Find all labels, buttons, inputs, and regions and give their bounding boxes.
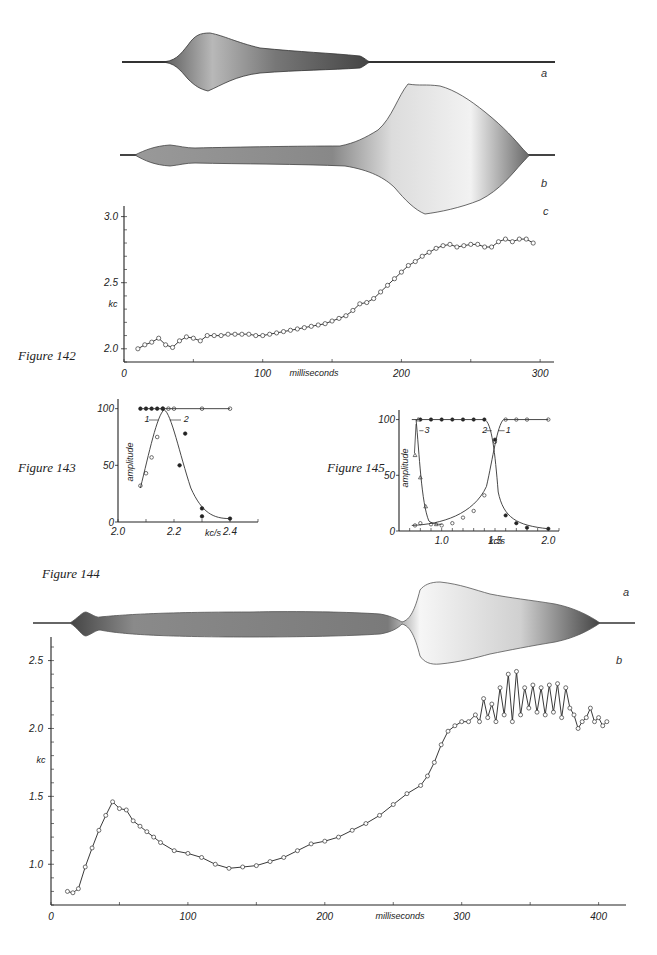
y-tick-label: 0 [389, 526, 395, 537]
data-point [337, 835, 341, 839]
data-point [150, 456, 154, 460]
data-point [268, 860, 272, 864]
y-tick-label: 50 [103, 460, 115, 471]
data-point [219, 333, 223, 337]
data-point [514, 669, 518, 673]
fig144-panel-b-label: b [616, 654, 622, 666]
data-point [323, 322, 327, 326]
data-point [351, 308, 355, 312]
data-point [413, 259, 417, 263]
x-tick-label: 400 [590, 911, 607, 922]
data-point [254, 333, 258, 337]
data-point [476, 242, 480, 246]
annotation-2: 2 [481, 425, 487, 435]
arrow-3-down [414, 424, 416, 453]
y-tick-label: 2.5 [103, 277, 118, 288]
data-point [76, 887, 80, 891]
data-point [268, 332, 272, 336]
data-point [155, 435, 159, 439]
curve-1 [412, 420, 549, 526]
x-axis-label: kc/s [489, 536, 506, 546]
data-point [104, 813, 108, 817]
data-point [323, 839, 327, 843]
data-point [531, 241, 535, 245]
fig142-panel-a-label: a [541, 67, 547, 79]
y-tick-label: 1.5 [29, 791, 43, 802]
data-point [240, 332, 244, 336]
data-point [288, 328, 292, 332]
y-tick-label: 2.0 [103, 343, 118, 354]
data-point [473, 713, 477, 717]
data-point [482, 697, 486, 701]
x-axis-label: kc/s [205, 528, 222, 538]
x-tick-label: 300 [532, 368, 549, 379]
fig142a-envelope: a [122, 33, 555, 91]
data-point [460, 720, 464, 724]
data-point [241, 865, 245, 869]
data-point [418, 475, 422, 478]
data-point [350, 828, 354, 832]
fig144-panel-a-label: a [623, 586, 629, 598]
data-point [399, 270, 403, 274]
data-point [496, 240, 500, 244]
data-point [531, 683, 535, 687]
x-axis-label: milliseconds [289, 368, 339, 378]
data-point [170, 345, 174, 349]
data-point [469, 242, 473, 246]
fig142c-chart: 01002003002.02.53.0millisecondskc [103, 206, 554, 379]
data-point [159, 841, 163, 845]
series-0 [65, 669, 608, 894]
data-point [419, 784, 423, 788]
data-point [261, 333, 265, 337]
data-point [183, 432, 187, 436]
data-point [551, 710, 555, 714]
y-axis-label: amplitude [400, 448, 410, 487]
data-point [510, 240, 514, 244]
y-axis-label: amplitude [125, 442, 135, 481]
data-point [309, 842, 313, 846]
data-point [282, 855, 286, 859]
data-point [441, 244, 445, 248]
data-point [337, 316, 341, 320]
data-point [178, 464, 182, 468]
data-point [227, 866, 231, 870]
data-point [406, 263, 410, 267]
annotation-1: 1 [145, 414, 150, 424]
data-point [576, 726, 580, 730]
data-point [504, 514, 507, 517]
data-point [191, 336, 195, 340]
annotation-3: 3 [425, 425, 430, 435]
x-tick-label: 300 [453, 911, 470, 922]
data-point [467, 720, 471, 724]
data-point [83, 865, 87, 869]
y-tick-label: 2.5 [28, 655, 43, 666]
data-point [138, 824, 142, 828]
x-tick-label: 2.4 [222, 526, 237, 537]
data-point [490, 702, 494, 706]
y-tick-label: 1.0 [29, 859, 43, 870]
data-point [601, 724, 605, 728]
data-point [572, 713, 576, 717]
data-point [547, 683, 551, 687]
data-point [564, 686, 568, 690]
fig142b-envelope: b [120, 84, 555, 214]
y-tick-label: 100 [97, 403, 114, 414]
data-point [295, 849, 299, 853]
data-point [584, 716, 588, 720]
data-point [483, 245, 487, 249]
figure-142-label: Figure 142 [17, 348, 76, 363]
figure-page: a b 01002003002.02.53.0millisecondskc c … [0, 0, 657, 955]
data-point [281, 330, 285, 334]
data-point [461, 516, 464, 519]
y-tick-label: 100 [378, 414, 395, 425]
y-tick-label: 3.0 [104, 211, 118, 222]
data-point [560, 716, 564, 720]
figure-145-label: Figure 145 [326, 460, 385, 475]
y-tick-label: 0 [108, 517, 114, 528]
data-point [111, 800, 115, 804]
data-point [184, 335, 188, 339]
series-0 [136, 237, 536, 351]
x-tick-label: 0 [121, 368, 127, 379]
curve-2 [412, 420, 549, 529]
data-point [90, 846, 94, 850]
